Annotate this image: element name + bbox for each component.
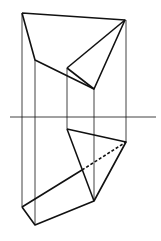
- top-view-edge-bd: [67, 20, 125, 68]
- front-view-edge-ig-visible: [22, 170, 82, 207]
- top-view-outline: [22, 13, 125, 89]
- front-view-edge-fh: [67, 129, 94, 201]
- projection-lines: [10, 13, 156, 225]
- front-view: [22, 129, 126, 225]
- top-view: [22, 13, 125, 89]
- front-view-outline: [22, 129, 126, 225]
- projection-drawing: [0, 0, 161, 241]
- front-view-edge-ig-hidden: [82, 142, 126, 170]
